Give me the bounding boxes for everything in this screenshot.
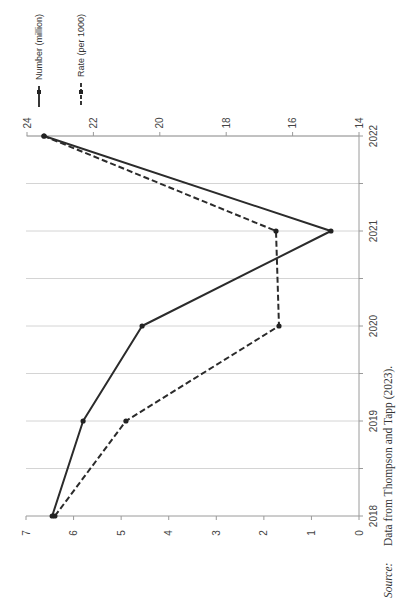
secondary-axis-ticks: 141618202224 [22,117,365,136]
legend-label-rate: Rate (per 1000) [76,14,86,77]
primary-tick-label: 4 [163,530,174,536]
data-point-marker [41,133,46,138]
secondary-tick-label: 18 [221,117,232,129]
data-point-marker [328,228,333,233]
primary-tick-label: 6 [68,530,79,536]
legend-item-rate: Rate (per 1000) [76,14,86,107]
category-tick-label: 2022 [368,124,379,147]
line-chart: 01234567 141618202224 201820192020202120… [0,0,407,599]
legend-label-number: Number (million) [34,14,44,80]
data-point-marker [139,323,144,328]
data-point-marker [80,418,85,423]
data-point-marker [52,513,57,518]
secondary-tick-label: 24 [22,117,33,129]
source-text: Data from Thompson and Tapp (2023). [382,366,395,546]
primary-tick-label: 7 [21,530,32,536]
category-tick-label: 2018 [368,504,379,527]
category-tick-label: 2019 [368,409,379,432]
primary-tick-label: 2 [258,530,269,536]
primary-tick-label: 0 [354,530,365,536]
source-prefix: Source: [382,563,394,598]
primary-tick-label: 3 [211,530,222,536]
secondary-tick-label: 16 [287,117,298,129]
source-note: Source: Data from Thompson and Tapp (202… [382,366,395,598]
category-tick-label: 2020 [368,314,379,337]
primary-tick-label: 1 [306,530,317,536]
legend-marker-icon [79,90,83,94]
secondary-tick-label: 22 [88,117,99,129]
data-point-marker [273,228,278,233]
category-tick-label: 2021 [368,219,379,242]
primary-tick-label: 5 [116,530,127,536]
data-point-marker [276,323,281,328]
legend-marker-icon [37,90,41,94]
primary-axis-ticks: 01234567 [21,516,365,536]
secondary-tick-label: 20 [154,117,165,129]
data-point-marker [123,418,128,423]
secondary-tick-label: 14 [354,117,365,129]
legend-item-number: Number (million) [34,14,44,107]
category-axis-ticks: 20182019202020212022 [359,124,379,527]
legend: Number (million) Rate (per 1000) [34,14,86,107]
